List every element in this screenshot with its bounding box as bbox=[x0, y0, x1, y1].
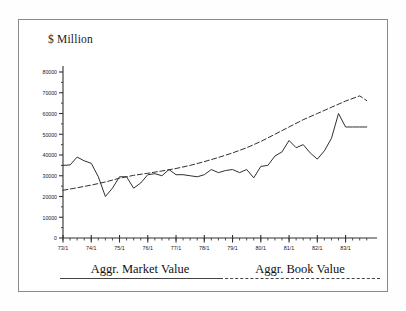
svg-text:0: 0 bbox=[54, 235, 57, 241]
legend-item-book-value: Aggr. Book Value bbox=[220, 262, 380, 282]
axis-unit-title: $ Million bbox=[48, 33, 93, 45]
svg-text:70000: 70000 bbox=[43, 90, 58, 96]
svg-text:77/1: 77/1 bbox=[171, 245, 182, 251]
svg-text:78/1: 78/1 bbox=[199, 245, 210, 251]
svg-text:75/1: 75/1 bbox=[114, 245, 125, 251]
series-line-aggr-book-value bbox=[63, 96, 367, 190]
svg-text:74/1: 74/1 bbox=[86, 245, 97, 251]
legend-item-market-value: Aggr. Market Value bbox=[60, 262, 220, 282]
legend-label-market-value: Aggr. Market Value bbox=[60, 262, 220, 277]
svg-text:80000: 80000 bbox=[43, 69, 58, 75]
svg-text:79/1: 79/1 bbox=[227, 245, 238, 251]
svg-text:60000: 60000 bbox=[43, 111, 58, 117]
svg-text:40000: 40000 bbox=[43, 152, 58, 158]
svg-text:82/1: 82/1 bbox=[312, 245, 323, 251]
svg-text:10000: 10000 bbox=[43, 215, 58, 221]
svg-text:73/1: 73/1 bbox=[58, 245, 69, 251]
legend: Aggr. Market Value Aggr. Book Value bbox=[18, 262, 388, 292]
svg-text:80/1: 80/1 bbox=[256, 245, 266, 251]
legend-swatch-dashed-line bbox=[220, 278, 380, 282]
legend-swatch-solid-line bbox=[60, 278, 220, 282]
chart-plot: 0100002000030000400005000060000700008000… bbox=[19, 20, 387, 291]
series-line-aggr-market-value bbox=[63, 114, 367, 197]
svg-text:83/1: 83/1 bbox=[340, 245, 351, 251]
svg-text:30000: 30000 bbox=[43, 173, 58, 179]
chart-frame: 0100002000030000400005000060000700008000… bbox=[18, 19, 388, 292]
figure-root: 0100002000030000400005000060000700008000… bbox=[0, 0, 406, 311]
legend-label-book-value: Aggr. Book Value bbox=[220, 262, 380, 277]
svg-text:20000: 20000 bbox=[43, 194, 58, 200]
svg-text:81/1: 81/1 bbox=[284, 245, 295, 251]
svg-text:50000: 50000 bbox=[43, 132, 58, 138]
svg-text:76/1: 76/1 bbox=[143, 245, 154, 251]
